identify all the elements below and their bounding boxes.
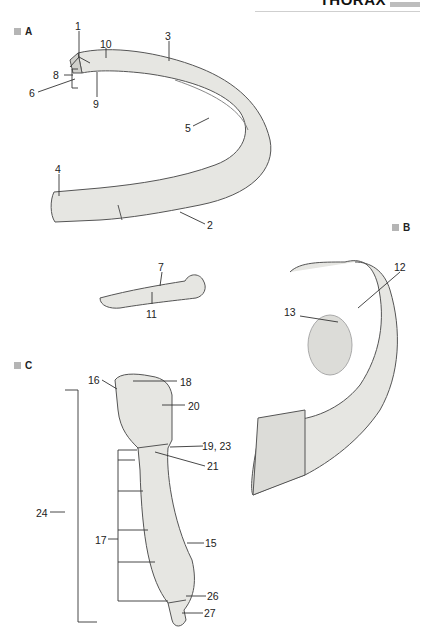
label-13: 13 bbox=[284, 307, 296, 318]
label-27: 27 bbox=[204, 608, 216, 619]
label-17: 17 bbox=[95, 535, 107, 546]
label-18: 18 bbox=[180, 377, 192, 388]
label-26: 26 bbox=[207, 591, 219, 602]
label-11: 11 bbox=[146, 309, 157, 320]
label-20: 20 bbox=[188, 401, 200, 412]
rib-head-detail bbox=[100, 275, 205, 308]
label-square bbox=[392, 224, 399, 231]
label-1: 1 bbox=[75, 21, 81, 32]
rib-b bbox=[252, 261, 398, 495]
label-9: 9 bbox=[93, 99, 99, 110]
panel-label-b: B bbox=[392, 222, 410, 233]
sternum-c bbox=[115, 374, 194, 626]
rib-a bbox=[51, 50, 271, 222]
label-square bbox=[14, 362, 21, 369]
panel-label-a: A bbox=[14, 26, 32, 37]
label-19-23: 19, 23 bbox=[202, 441, 231, 452]
label-4: 4 bbox=[55, 164, 61, 175]
label-5: 5 bbox=[185, 123, 191, 134]
label-2: 2 bbox=[207, 220, 213, 231]
label-15: 15 bbox=[205, 538, 217, 549]
label-3: 3 bbox=[165, 31, 171, 42]
label-6: 6 bbox=[29, 88, 35, 99]
label-square bbox=[14, 28, 21, 35]
label-16: 16 bbox=[88, 375, 100, 386]
label-24: 24 bbox=[36, 508, 48, 519]
label-7: 7 bbox=[158, 262, 164, 273]
panel-label-c: C bbox=[14, 360, 32, 371]
label-21: 21 bbox=[207, 461, 219, 472]
label-12: 12 bbox=[394, 262, 406, 273]
label-8: 8 bbox=[53, 70, 59, 81]
label-10: 10 bbox=[100, 39, 112, 50]
